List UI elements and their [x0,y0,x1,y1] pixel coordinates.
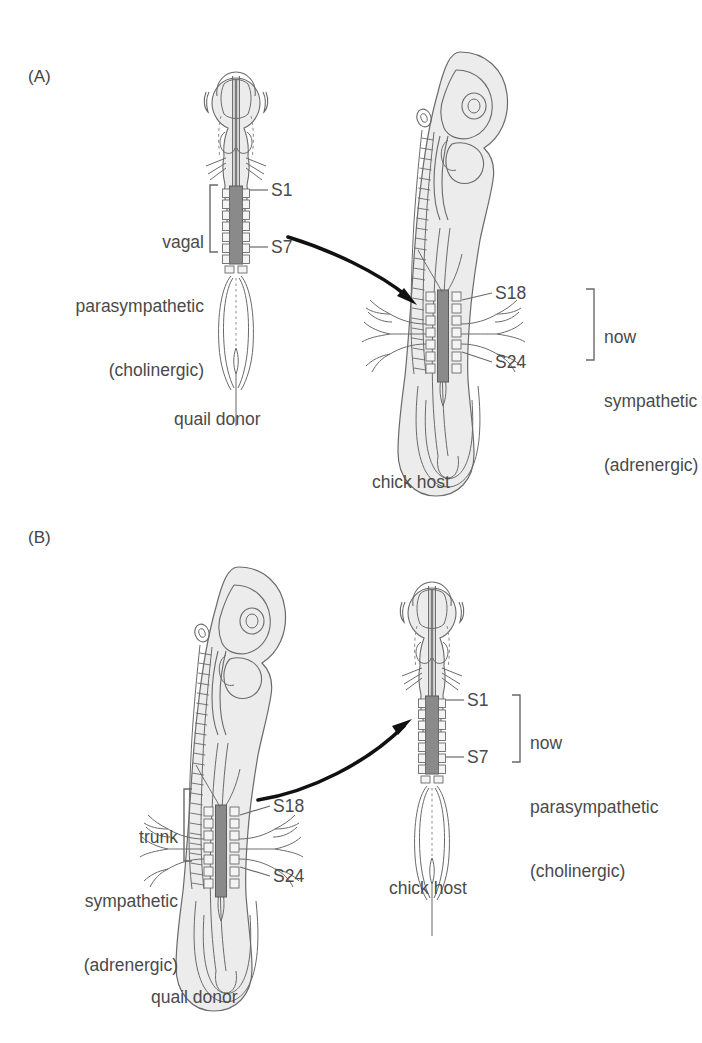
panel-a-right-label-line2: sympathetic [604,391,700,412]
panel-b-donor-somite-bottom-label: S24 [273,866,304,887]
panel-a-chick-host-embryo [362,52,525,496]
panel-b-left-label: trunk sympathetic (adrenergic) [12,784,178,997]
panel-a-right-label: now sympathetic (adrenergic) [604,284,700,497]
panel-b-graphics [140,567,520,1011]
panel-b-right-bracket [512,695,520,762]
panel-b-right-label-line3: (cholinergic) [530,861,702,882]
panel-a-right-label-line3: (adrenergic) [604,455,700,476]
panel-a-right-label-line1: now [604,327,700,348]
panel-a-left-bracket [210,185,218,252]
panel-a-donor-caption: quail donor [174,409,261,430]
panel-b-transplant-arrow [258,726,404,800]
panel-a-host-somite-bottom-label: S24 [495,352,526,373]
panel-b-right-label: now parasympathetic (cholinergic) [530,690,702,903]
panel-b-donor-somite-top-label: S18 [273,796,304,817]
panel-b-letter: (B) [28,528,51,549]
panel-b-left-label-line1: trunk [12,827,178,848]
panel-a-graphics [204,52,594,496]
panel-a-right-bracket [586,289,594,360]
panel-b-host-somite-bottom-label: S7 [467,747,488,768]
panel-b-right-label-line2: parasympathetic [530,797,702,818]
panel-a-donor-somite-top-label: S1 [271,180,292,201]
panel-b-right-label-line1: now [530,733,702,754]
panel-a-transplant-arrow [288,237,408,297]
panel-a-quail-donor-embryo [204,72,267,426]
panel-a-host-somite-top-label: S18 [495,283,526,304]
panel-a-host-caption: chick host [372,472,450,493]
panel-a-donor-somite-bottom-label: S7 [271,237,292,258]
panel-b-donor-caption: quail donor [151,987,238,1008]
panel-b-left-label-line3: (adrenergic) [12,955,178,976]
figure-root: (A) vagal parasympathetic (cholinergic) … [0,0,702,1043]
panel-a-letter: (A) [28,67,51,88]
panel-b-host-caption: chick host [389,878,467,899]
panel-b-host-somite-top-label: S1 [467,690,488,711]
panel-a-left-label-line1: vagal [38,232,204,253]
panel-a-left-label: vagal parasympathetic (cholinergic) [38,189,204,402]
panel-a-left-label-line3: (cholinergic) [38,360,204,381]
panel-a-left-label-line2: parasympathetic [38,296,204,317]
panel-b-left-label-line2: sympathetic [12,891,178,912]
